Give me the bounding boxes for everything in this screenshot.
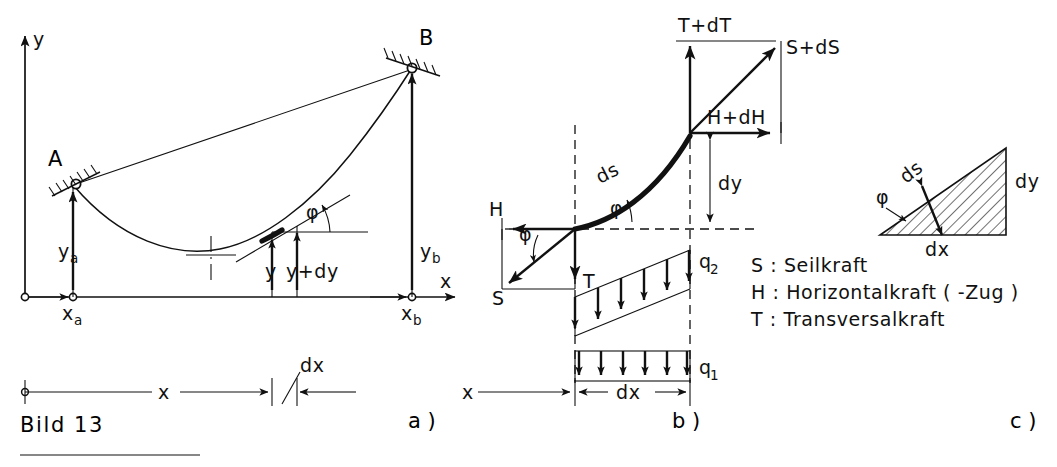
- q1-sublabel: 1: [710, 367, 719, 383]
- x-axis-label: x: [440, 270, 452, 292]
- support-a-ground-line: [52, 172, 100, 196]
- legend-entry-s: S : Seilkraft: [751, 254, 868, 276]
- tangent-line: [236, 195, 350, 262]
- phi-angle-label: φ: [306, 201, 319, 223]
- s-force-label: S: [492, 287, 505, 309]
- differential-triangle-shape: [880, 148, 1006, 235]
- legend-entry-h: H : Horizontalkraft ( -Zug ): [751, 281, 1019, 303]
- panel-b-group: ds φ T+dT H+dH S+dS dy H T S φ: [462, 14, 841, 433]
- panel-label-b: b ): [672, 409, 700, 433]
- t-force-label: T: [582, 270, 595, 292]
- xa-sublabel: a: [74, 312, 83, 328]
- yb-label: y: [420, 240, 432, 262]
- figure-sheet: y x x a x b y a y b y y+dy: [0, 0, 1057, 467]
- legend-entry-t: T : Transversalkraft: [750, 308, 945, 330]
- panel-c-phi-leader: [886, 208, 906, 221]
- phi-angle-arc-polygon: [533, 235, 538, 262]
- legend-group: S : Seilkraft H : Horizontalkraft ( -Zug…: [750, 254, 1019, 330]
- panel-c-dy-label: dy: [1015, 170, 1040, 192]
- panel-label-c: c ): [1010, 409, 1036, 433]
- support-b: B: [384, 26, 440, 76]
- dx-dimension-label: dx: [300, 354, 325, 376]
- load-q2: q 2: [575, 250, 719, 336]
- origin-node: [21, 293, 28, 300]
- q2-bottom-edge: [575, 289, 690, 336]
- cable-curve: [74, 68, 412, 251]
- support-b-label: B: [419, 26, 433, 50]
- y-axis-label: y: [33, 28, 45, 50]
- h-plus-dh-label: H+dH: [707, 106, 766, 128]
- xb-sublabel: b: [413, 312, 422, 328]
- panel-b-x-label: x: [462, 381, 474, 403]
- cable-element-ds: [575, 136, 690, 229]
- figure-canvas: y x x a x b y a y b y y+dy: [0, 0, 1057, 467]
- panel-b-dx-label: dx: [616, 381, 641, 403]
- ydy-label: y+dy: [286, 260, 339, 282]
- panel-c-ds-label: ds: [895, 156, 927, 188]
- chord-line-ab: [76, 70, 410, 184]
- ds-label: ds: [592, 157, 623, 187]
- ya-label: y: [58, 240, 70, 262]
- panel-a-group: y x x a x b y a y b y y+dy: [21, 26, 455, 433]
- panel-label-a: a ): [408, 409, 436, 433]
- x-dimension-label: x: [158, 381, 170, 403]
- q1-box: [575, 351, 690, 381]
- support-a-label: A: [48, 147, 63, 171]
- panel-b-dimension-row: x dx: [462, 378, 690, 406]
- load-q1: q 1: [575, 351, 719, 383]
- phi-angle-label-element: φ: [610, 197, 623, 219]
- y-label: y: [265, 260, 277, 282]
- xb-label: x: [401, 302, 413, 324]
- panel-c-dx-label: dx: [925, 238, 950, 260]
- t-plus-dt-label: T+dT: [677, 14, 732, 36]
- h-force-label: H: [489, 198, 504, 220]
- ya-sublabel: a: [70, 250, 79, 266]
- phi-angle-label-polygon: φ: [519, 223, 532, 245]
- panel-a-dimension-row: x dx: [22, 354, 356, 406]
- s-plus-ds-label: S+dS: [786, 36, 841, 58]
- dy-label: dy: [718, 172, 743, 194]
- figure-caption: Bild 13: [20, 413, 104, 437]
- yb-sublabel: b: [432, 250, 441, 266]
- panel-c-phi-label: φ: [876, 186, 889, 208]
- xa-label: x: [62, 302, 74, 324]
- support-a: A: [48, 147, 100, 196]
- q2-sublabel: 2: [710, 261, 719, 277]
